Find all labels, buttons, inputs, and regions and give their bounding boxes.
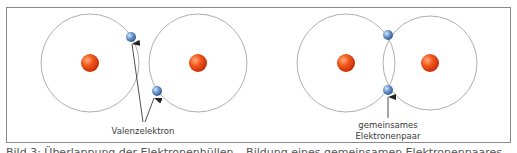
shared-pair-label-line2: Elektronenpaar xyxy=(348,131,428,142)
arrow-to-electron-2 xyxy=(145,98,154,122)
nucleus-atom-3 xyxy=(337,54,355,72)
diagram-canvas xyxy=(0,0,517,153)
nucleus-atom-1 xyxy=(81,54,99,72)
figure-caption: Bild 3: Überlappung der Elektronenhüllen… xyxy=(6,146,511,153)
right-panel xyxy=(297,14,477,118)
shared-electron-2 xyxy=(383,85,393,95)
figure-frame xyxy=(7,8,511,143)
valence-electron-1 xyxy=(126,32,136,42)
valence-electron-label: Valenzelektron xyxy=(103,126,183,137)
diagram: Valenzelektron gemeinsames Elektronenpaa… xyxy=(0,0,517,153)
shared-pair-label-line1: gemeinsames xyxy=(348,120,428,131)
valence-electron-2 xyxy=(152,86,162,96)
arrow-to-electron-1 xyxy=(132,44,143,122)
left-panel xyxy=(41,14,247,122)
shared-electron-1 xyxy=(383,30,393,40)
nucleus-atom-2 xyxy=(189,54,207,72)
nucleus-atom-4 xyxy=(421,54,439,72)
